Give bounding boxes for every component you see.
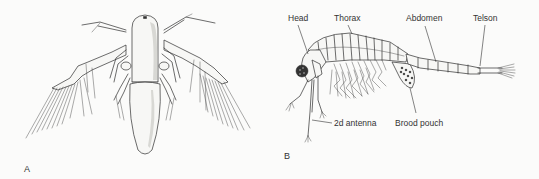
left-antennule	[82, 22, 126, 32]
abdomen	[406, 54, 480, 74]
left-antenna	[26, 45, 126, 138]
nauplius-body	[130, 15, 161, 154]
nauplius-drawing	[0, 0, 270, 179]
panel-b: Head Thorax Abdomen Telson 2d antenna Br…	[270, 0, 539, 179]
right-mandible	[159, 48, 180, 120]
label-2d-antenna: 2d antenna	[334, 119, 377, 128]
compound-eye	[296, 65, 308, 77]
leader-2d-antenna	[312, 120, 332, 123]
second-antenna	[286, 76, 326, 142]
label-abdomen: Abdomen	[406, 14, 442, 23]
telson	[478, 64, 515, 78]
leader-telson	[480, 25, 485, 66]
right-antennule	[164, 14, 215, 33]
head	[296, 50, 326, 82]
right-antenna	[164, 40, 250, 130]
label-head: Head	[288, 14, 308, 23]
naupliar-eye	[144, 17, 147, 19]
label-brood-pouch: Brood pouch	[395, 119, 443, 128]
brine-shrimp-drawing	[270, 0, 539, 179]
panel-label-b: B	[284, 152, 290, 161]
panel-label-a: A	[24, 165, 30, 174]
panel-a: A	[0, 0, 270, 179]
leader-brood-pouch	[410, 88, 416, 113]
leader-abdomen	[425, 26, 436, 62]
brood-pouch	[392, 62, 415, 88]
label-thorax: Thorax	[334, 14, 360, 23]
thoracopods	[330, 60, 386, 98]
label-telson: Telson	[473, 14, 498, 23]
leader-head	[298, 25, 308, 54]
